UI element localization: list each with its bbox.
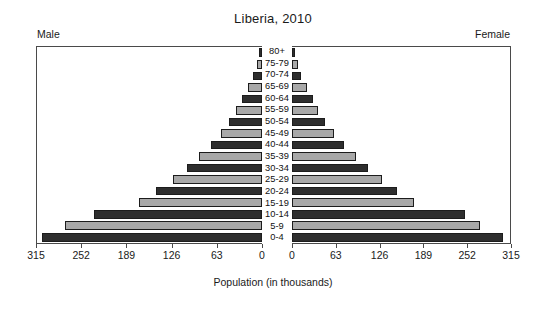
axis-tick-label: 126 xyxy=(371,249,389,261)
age-group-label: 60-64 xyxy=(262,93,292,105)
bar-row xyxy=(292,70,510,82)
axis-tick xyxy=(81,244,82,248)
axis-tick xyxy=(36,244,37,248)
male-bar xyxy=(229,118,262,127)
female-bar xyxy=(292,221,480,230)
axis-tick-label: 189 xyxy=(415,249,433,261)
bar-row xyxy=(292,185,510,197)
female-bar xyxy=(292,175,382,184)
female-bar xyxy=(292,141,344,150)
bar-row xyxy=(37,105,262,117)
male-bar xyxy=(199,152,262,161)
axis-tick-label: 63 xyxy=(211,249,223,261)
bar-row xyxy=(37,151,262,163)
bar-row xyxy=(292,47,510,59)
bar-row xyxy=(292,93,510,105)
age-group-label: 25-29 xyxy=(262,174,292,186)
age-group-label: 5-9 xyxy=(262,221,292,233)
age-group-label: 65-69 xyxy=(262,81,292,93)
male-bar xyxy=(156,187,262,196)
axis-tick xyxy=(126,244,127,248)
bar-row xyxy=(37,70,262,82)
male-bar xyxy=(211,141,262,150)
male-bar xyxy=(221,129,262,138)
age-group-label: 70-74 xyxy=(262,69,292,81)
bar-row xyxy=(292,162,510,174)
axis-tick xyxy=(262,244,263,248)
bar-row xyxy=(292,139,510,151)
chart-title: Liberia, 2010 xyxy=(0,11,546,26)
female-bar-rows xyxy=(292,47,510,243)
bar-row xyxy=(37,185,262,197)
bar-row xyxy=(37,232,262,244)
age-group-label: 45-49 xyxy=(262,127,292,139)
female-axis-ticks: 063126189252315 xyxy=(292,244,511,249)
age-group-label: 80+ xyxy=(262,46,292,58)
bar-row xyxy=(292,128,510,140)
female-bar xyxy=(292,48,295,57)
bar-row xyxy=(37,93,262,105)
age-group-label: 30-34 xyxy=(262,162,292,174)
bar-row xyxy=(292,59,510,71)
age-group-label: 15-19 xyxy=(262,197,292,209)
male-bar xyxy=(94,210,262,219)
axis-tick xyxy=(217,244,218,248)
male-bar xyxy=(173,175,262,184)
female-bar xyxy=(292,60,298,69)
bar-row xyxy=(37,197,262,209)
male-bar xyxy=(242,95,262,104)
bar-row xyxy=(37,82,262,94)
male-bar-rows xyxy=(37,47,262,243)
axis-tick-label: 0 xyxy=(259,249,265,261)
male-bar xyxy=(253,72,262,81)
bar-row xyxy=(37,128,262,140)
bar-row xyxy=(292,232,510,244)
male-bar xyxy=(187,164,262,173)
axis-tick-label: 189 xyxy=(118,249,136,261)
age-group-label: 50-54 xyxy=(262,116,292,128)
bar-row xyxy=(292,116,510,128)
male-bar xyxy=(65,221,262,230)
bar-row xyxy=(37,162,262,174)
x-axis-title: Population (in thousands) xyxy=(0,276,546,288)
female-bar xyxy=(292,118,325,127)
bar-row xyxy=(37,116,262,128)
female-bar xyxy=(292,210,465,219)
female-bar xyxy=(292,72,301,81)
male-axis-ticks: 315252189126630 xyxy=(36,244,262,249)
axis-tick-label: 315 xyxy=(27,249,45,261)
male-plot-panel xyxy=(36,46,262,244)
axis-tick xyxy=(380,244,381,248)
bar-row xyxy=(292,82,510,94)
female-bar xyxy=(292,129,334,138)
bar-row xyxy=(37,139,262,151)
bar-row xyxy=(37,208,262,220)
female-bar xyxy=(292,164,368,173)
bar-row xyxy=(292,151,510,163)
axis-tick xyxy=(511,244,512,248)
axis-tick xyxy=(336,244,337,248)
bar-row xyxy=(292,105,510,117)
female-bar xyxy=(292,83,307,92)
female-bar xyxy=(292,95,313,104)
female-bar xyxy=(292,198,414,207)
male-bar xyxy=(42,233,262,242)
age-group-labels: 80+75-7970-7465-6960-6455-5950-5445-4940… xyxy=(262,46,292,244)
female-bar xyxy=(292,187,397,196)
female-plot-panel xyxy=(292,46,511,244)
axis-tick-label: 126 xyxy=(163,249,181,261)
axis-tick xyxy=(172,244,173,248)
axis-tick-label: 315 xyxy=(502,249,520,261)
axis-tick-label: 252 xyxy=(72,249,90,261)
axis-tick-label: 252 xyxy=(458,249,476,261)
age-group-label: 55-59 xyxy=(262,104,292,116)
age-group-label: 75-79 xyxy=(262,58,292,70)
age-group-label: 0-4 xyxy=(262,232,292,244)
bar-row xyxy=(37,47,262,59)
axis-tick xyxy=(292,244,293,248)
axis-tick-label: 0 xyxy=(289,249,295,261)
bar-row xyxy=(292,174,510,186)
age-group-label: 35-39 xyxy=(262,151,292,163)
male-side-label: Male xyxy=(37,28,60,40)
age-group-label: 40-44 xyxy=(262,139,292,151)
